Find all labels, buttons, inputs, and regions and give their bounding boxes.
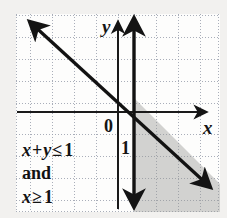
x-intercept-label-1: 1 [121, 139, 130, 157]
inequality-line-2: x≥1 [22, 186, 74, 209]
inequality-2-relation: ≥ [31, 187, 43, 207]
inequality-1-variable-x: x [22, 140, 31, 160]
y-axis-label: y [102, 17, 110, 36]
inequality-1-plus-operator: + [31, 140, 43, 160]
inequality-conjunction: and [22, 162, 74, 185]
inequality-system-text: x+y≤1 and x≥1 [22, 139, 74, 209]
x-axis-label: x [203, 118, 213, 137]
figure-screenshot: x y 0 1 x+y≤1 and x≥1 [0, 0, 227, 218]
inequality-line-1: x+y≤1 [22, 139, 74, 162]
origin-label: 0 [104, 117, 113, 135]
inequality-1-value: 1 [63, 140, 74, 160]
inequality-2-variable-x: x [22, 187, 31, 207]
inequality-1-relation: ≤ [51, 140, 63, 160]
inequality-2-value: 1 [43, 187, 54, 207]
